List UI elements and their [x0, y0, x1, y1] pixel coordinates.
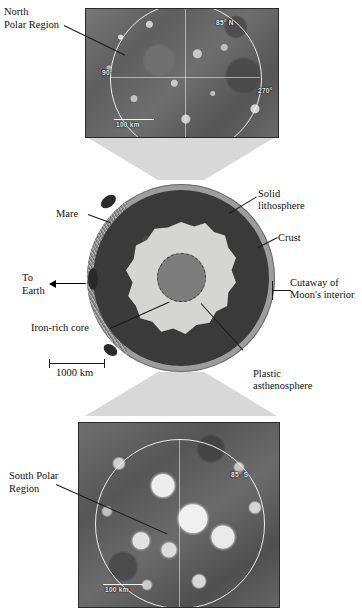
funnel-top [85, 136, 277, 180]
funnel-bottom [85, 372, 277, 416]
longitude-label-90: 90° [102, 69, 113, 76]
cutaway-label-line2: Moon's interior [290, 289, 355, 301]
north-polar-photo: 85° N 90° 270° 100 km [85, 8, 279, 138]
iron-core-label: Iron-rich core [31, 322, 89, 334]
south-polar-caption-line1: South Polar [9, 470, 58, 482]
cutaway-scale-cap-left [49, 359, 50, 368]
photo-scale-bar-north [114, 119, 154, 120]
cutaway-scale-bar [49, 363, 105, 364]
mare-label: Mare [56, 208, 78, 220]
to-earth-label-line1: To [22, 272, 33, 284]
cutaway-scale-label: 1000 km [56, 367, 93, 378]
to-earth-arrow-line [55, 283, 86, 284]
meridian-line-horizontal [110, 77, 260, 78]
cutaway-scale-cap-right [104, 359, 105, 368]
cutaway-leader [272, 290, 291, 291]
asthenosphere-label-line1: Plastic [253, 368, 281, 380]
moon-interior-figure: 85° N 90° 270° 100 km North Polar Region… [0, 0, 362, 614]
latitude-label-south: 85° S [231, 471, 248, 478]
solid-lithosphere-label-line1: Solid [258, 188, 280, 200]
latitude-label-north: 85° N [216, 19, 234, 26]
meridian-line-vertical [185, 9, 186, 137]
south-polar-photo: 85° S 100 km [78, 422, 280, 608]
moon-iron-core [157, 253, 206, 302]
to-earth-label-line2: Earth [22, 285, 45, 297]
latitude-circle-85s [95, 439, 265, 608]
crust-label: Crust [278, 232, 301, 244]
solid-lithosphere-label-line2: lithosphere [258, 200, 305, 212]
photo-scale-label-south: 100 km [105, 586, 129, 593]
photo-scale-label-north: 100 km [116, 121, 140, 128]
asthenosphere-label-line2: asthenosphere [253, 380, 312, 392]
cutaway-label-line1: Cutaway of [290, 277, 339, 289]
north-polar-caption-line1: North [4, 6, 29, 18]
meridian-line-vertical-south [179, 439, 180, 607]
photo-scale-bar-south [103, 584, 143, 585]
cutaway-leader-bracket [272, 281, 273, 300]
south-polar-caption-line2: Region [9, 483, 39, 495]
mare-patch-left [88, 268, 98, 290]
north-polar-caption-line2: Polar Region [4, 19, 59, 31]
longitude-label-270: 270° [258, 87, 273, 94]
to-earth-arrow-head [49, 280, 56, 288]
